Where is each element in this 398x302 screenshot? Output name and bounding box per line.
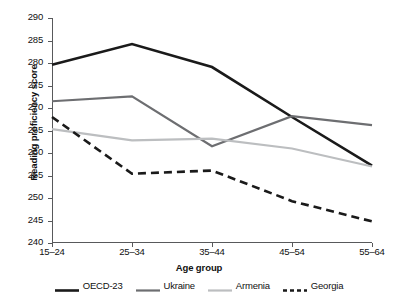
legend-swatch-icon <box>55 281 79 290</box>
legend-item-oecd-23[interactable]: OECD-23 <box>55 280 123 291</box>
y-tick-label: 250 <box>28 191 43 202</box>
y-tick-label: 260 <box>28 146 43 157</box>
y-tick-label: 280 <box>28 56 43 67</box>
legend-item-georgia[interactable]: Georgia <box>283 280 343 291</box>
series-line-armenia <box>52 129 372 166</box>
legend-item-ukraine[interactable]: Ukraine <box>136 280 195 291</box>
y-tick-label: 290 <box>28 11 43 22</box>
legend-label: Armenia <box>236 280 270 291</box>
reading-proficiency-line-chart: Reading proficiency score 24024525025526… <box>0 0 398 302</box>
x-tick-label: 15–24 <box>39 246 64 257</box>
legend-swatch-icon <box>136 281 160 290</box>
y-tick-label: 245 <box>28 214 43 225</box>
legend-swatch-icon <box>283 281 307 290</box>
x-axis-title: Age group <box>0 262 398 273</box>
y-tick-label: 265 <box>28 124 43 135</box>
y-tick-label: 255 <box>28 169 43 180</box>
chart-legend: OECD-23UkraineArmeniaGeorgia <box>0 280 398 291</box>
series-line-georgia <box>52 117 372 221</box>
series-lines <box>52 18 372 243</box>
x-tick-label: 35–44 <box>199 246 224 257</box>
y-tick-label: 270 <box>28 101 43 112</box>
y-tick-label: 275 <box>28 79 43 90</box>
legend-label: Ukraine <box>164 280 195 291</box>
legend-item-armenia[interactable]: Armenia <box>208 280 270 291</box>
x-tick-label: 25–34 <box>119 246 144 257</box>
legend-label: OECD-23 <box>83 280 123 291</box>
x-tick-label: 45–54 <box>279 246 304 257</box>
plot-area: 240245250255260265270275280285290 15–242… <box>52 18 372 243</box>
legend-swatch-icon <box>208 281 232 290</box>
x-tick-label: 55–64 <box>359 246 384 257</box>
legend-label: Georgia <box>311 280 343 291</box>
y-tick-label: 285 <box>28 34 43 45</box>
